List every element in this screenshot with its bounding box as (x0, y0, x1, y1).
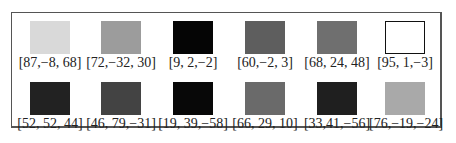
swatch-cell: [68, 24, 48] (301, 21, 373, 71)
swatch-label: [68, 24, 48] (301, 55, 373, 71)
swatch-label: [60,−2, 3] (229, 55, 301, 71)
color-swatch (385, 21, 425, 54)
swatch-label: [19, 39,−58] (157, 116, 229, 132)
color-swatch (245, 82, 285, 115)
swatch-cell: [52, 52, 44] (14, 82, 86, 132)
color-swatch (317, 82, 357, 115)
swatch-cell: [95, 1,−3] (369, 21, 441, 71)
color-swatch (317, 21, 357, 54)
color-swatch (385, 82, 425, 115)
swatch-label: [87,−8, 68] (14, 55, 86, 71)
swatch-label: [33,41,−56] (301, 116, 373, 132)
swatch-label: [76,−19,−24] (369, 116, 441, 132)
color-swatch (101, 21, 141, 54)
swatch-cell: [66, 29, 10] (229, 82, 301, 132)
swatch-cell: [60,−2, 3] (229, 21, 301, 71)
swatch-cell: [19, 39,−58] (157, 82, 229, 132)
color-swatch (30, 21, 70, 54)
swatch-cell: [33,41,−56] (301, 82, 373, 132)
swatch-label: [46, 79,−31] (85, 116, 157, 132)
swatch-label: [9, 2,−2] (157, 55, 229, 71)
swatch-cell: [87,−8, 68] (14, 21, 86, 71)
swatch-label: [95, 1,−3] (369, 55, 441, 71)
color-swatch (245, 21, 285, 54)
swatch-panel: [87,−8, 68] [72,−32, 30] [9, 2,−2] [60,−… (11, 12, 442, 128)
color-swatch (173, 21, 213, 54)
color-swatch (101, 82, 141, 115)
swatch-cell: [76,−19,−24] (369, 82, 441, 132)
swatch-label: [66, 29, 10] (229, 116, 301, 132)
swatch-label: [72,−32, 30] (85, 55, 157, 71)
color-swatch (30, 82, 70, 115)
swatch-cell: [46, 79,−31] (85, 82, 157, 132)
color-swatch (173, 82, 213, 115)
swatch-cell: [72,−32, 30] (85, 21, 157, 71)
swatch-label: [52, 52, 44] (14, 116, 86, 132)
swatch-cell: [9, 2,−2] (157, 21, 229, 71)
